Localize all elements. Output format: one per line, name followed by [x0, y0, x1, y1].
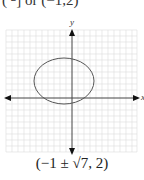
- x-axis-arrow-right-icon: [133, 95, 140, 101]
- coordinate-plane: [0, 0, 144, 180]
- x-axis-arrow-left-icon: [4, 95, 11, 101]
- y-axis-arrow-down-icon: [69, 148, 75, 155]
- ellipse-curve: [34, 58, 94, 104]
- axes: [8, 34, 136, 150]
- caption-points: (−1 ± √7, 2): [0, 155, 144, 172]
- x-axis-label: x: [141, 92, 144, 102]
- y-axis-label: y: [70, 17, 74, 27]
